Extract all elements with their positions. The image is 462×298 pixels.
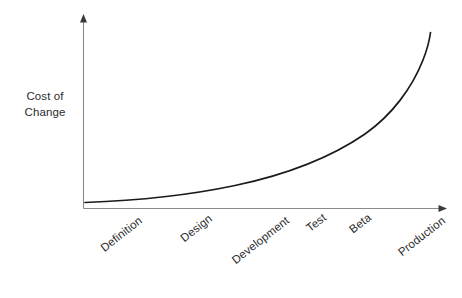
x-tick-label-development: Development bbox=[230, 214, 292, 266]
x-tick-label-test: Test bbox=[304, 211, 329, 234]
chart-canvas: Cost of Change Definition Design Develop… bbox=[0, 0, 462, 298]
y-axis-arrow-icon bbox=[80, 14, 87, 23]
y-axis-label-line2: Change bbox=[25, 106, 66, 118]
x-tick-label-definition: Definition bbox=[98, 214, 144, 254]
x-tick-label-beta: Beta bbox=[347, 211, 374, 236]
cost-of-change-chart: Cost of Change Definition Design Develop… bbox=[0, 0, 462, 298]
y-axis-label-line1: Cost of bbox=[26, 90, 64, 102]
x-tick-label-production: Production bbox=[396, 214, 448, 258]
x-axis-arrow-icon bbox=[439, 205, 448, 212]
x-tick-label-design: Design bbox=[178, 212, 214, 244]
x-axis-tick-labels: Definition Design Development Test Beta … bbox=[98, 211, 447, 266]
cost-of-change-curve bbox=[85, 33, 431, 203]
